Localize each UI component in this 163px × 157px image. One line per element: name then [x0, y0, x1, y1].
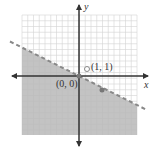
- test-point-label: (1, 1): [91, 61, 113, 73]
- inequality-graph: y x (0, 0) (1, 1): [0, 0, 163, 157]
- test-point: [85, 67, 90, 72]
- y-axis-label: y: [83, 1, 89, 12]
- line-point: [100, 88, 105, 93]
- x-axis-label: x: [143, 79, 149, 90]
- origin-label: (0, 0): [56, 78, 78, 90]
